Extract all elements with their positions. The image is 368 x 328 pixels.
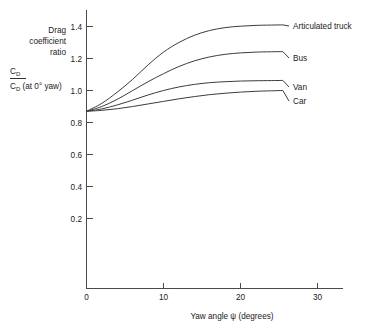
y-axis-label-line-1: Drag	[48, 26, 66, 35]
y-tick-label-0.4: 0.4	[71, 183, 83, 192]
y-tick-label-0.6: 0.6	[71, 151, 83, 160]
axes-group	[87, 10, 344, 289]
chart-canvas: 1.4 1.2 1.0 0.8 0.6 0.4 0.2 0 10 20 30 Y…	[0, 0, 368, 328]
x-tick-label-30: 30	[313, 293, 323, 302]
series-leader-articulated-truck	[283, 25, 289, 26]
x-tick-label-0: 0	[84, 293, 89, 302]
series-curve-bus	[87, 52, 283, 112]
y-axis-label-group: Drag coefficient ratio CD CD (at 0° yaw)	[10, 26, 67, 92]
y-axis-fraction-denominator: CD (at 0° yaw)	[10, 82, 62, 92]
x-tick-label-10: 10	[159, 293, 169, 302]
y-tick-label-1.4: 1.4	[71, 23, 83, 32]
y-tick-marks	[87, 27, 93, 219]
y-tick-label-1.2: 1.2	[71, 55, 83, 64]
drag-coefficient-chart: 1.4 1.2 1.0 0.8 0.6 0.4 0.2 0 10 20 30 Y…	[0, 0, 368, 328]
series-label-articulated-truck: Articulated truck	[293, 22, 353, 31]
series-leader-bus	[283, 52, 289, 58]
y-axis-label-line-2: coefficient	[29, 37, 66, 46]
y-tick-label-0.8: 0.8	[71, 119, 83, 128]
series-curves-group	[87, 25, 290, 111]
y-axis-fraction-numerator: CD	[10, 67, 21, 77]
series-label-van: Van	[293, 83, 307, 92]
series-curve-van	[87, 80, 283, 111]
series-labels-group: Articulated truckBusVanCar	[293, 22, 353, 106]
x-tick-marks	[87, 283, 318, 289]
series-label-bus: Bus	[293, 54, 307, 63]
fraction-numerator-sub: D	[16, 71, 21, 77]
x-tick-label-20: 20	[236, 293, 246, 302]
y-tick-labels: 1.4 1.2 1.0 0.8 0.6 0.4 0.2	[71, 23, 83, 224]
series-label-car: Car	[293, 97, 306, 106]
fraction-denominator-rest: (at 0° yaw)	[20, 82, 62, 91]
y-tick-label-1.0: 1.0	[71, 87, 83, 96]
y-tick-label-0.2: 0.2	[71, 215, 83, 224]
y-axis-label-line-3: ratio	[50, 48, 66, 57]
series-leader-car	[283, 91, 289, 102]
x-axis-label: Yaw angle ψ (degrees)	[190, 312, 273, 321]
x-tick-labels: 0 10 20 30	[84, 293, 322, 302]
series-leader-van	[283, 80, 289, 87]
